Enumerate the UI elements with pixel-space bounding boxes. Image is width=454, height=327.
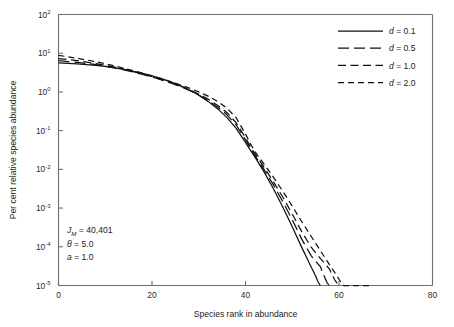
legend-label-3: d = 2.0 bbox=[389, 78, 416, 88]
y-tick-label: 102 bbox=[38, 9, 51, 20]
curves-group bbox=[59, 55, 372, 285]
annotation-line-2: a = 1.0 bbox=[67, 252, 94, 262]
legend-label-1: d = 0.5 bbox=[389, 43, 416, 53]
plot-frame bbox=[59, 15, 433, 286]
x-tick-label: 20 bbox=[147, 290, 157, 300]
y-tick-label: 100 bbox=[38, 86, 51, 97]
legend-label-2: d = 1.0 bbox=[389, 61, 416, 71]
curve-series-3 bbox=[59, 55, 372, 285]
x-tick-label: 60 bbox=[334, 290, 344, 300]
curve-series-1 bbox=[59, 61, 330, 286]
y-axis-title: Per cent relative species abundance bbox=[8, 81, 18, 220]
figure-container: 10210110010-110-210-310-410-5 020406080 … bbox=[0, 0, 454, 327]
y-tick-label: 10-2 bbox=[36, 164, 51, 175]
annotation-line-1: θ = 5.0 bbox=[67, 239, 94, 249]
legend: d = 0.1d = 0.5d = 1.0d = 2.0 bbox=[338, 26, 416, 88]
legend-label-0: d = 0.1 bbox=[389, 26, 416, 36]
y-tick-label: 101 bbox=[38, 48, 51, 59]
curve-series-0 bbox=[59, 63, 321, 286]
y-tick-label: 10-3 bbox=[36, 203, 51, 214]
x-tick-label: 0 bbox=[56, 290, 61, 300]
x-tick-label: 40 bbox=[241, 290, 251, 300]
y-tick-label: 10-4 bbox=[36, 241, 51, 252]
parameter-annotation: JM = 40,401θ = 5.0a = 1.0 bbox=[66, 225, 113, 262]
y-tick-label: 10-5 bbox=[36, 280, 51, 291]
annotation-line-0: JM = 40,401 bbox=[66, 225, 113, 237]
x-axis-ticks: 020406080 bbox=[56, 281, 437, 300]
y-tick-label: 10-1 bbox=[36, 125, 51, 136]
species-abundance-chart: 10210110010-110-210-310-410-5 020406080 … bbox=[0, 0, 454, 327]
x-axis-title: Species rank in abundance bbox=[194, 309, 298, 319]
x-tick-label: 80 bbox=[428, 290, 438, 300]
